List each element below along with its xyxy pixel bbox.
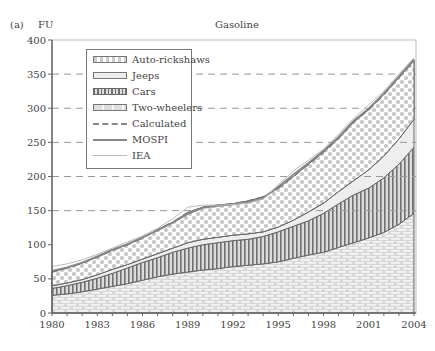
dashed-line-swatch-icon [93,123,127,125]
x-tick-label: 1998 [311,319,336,330]
solid-line-swatch-icon [93,139,127,141]
legend: Auto-rickshaws Jeeps Cars Two-wheelers C… [86,49,192,169]
y-tick-label: 300 [27,103,46,114]
y-tick-label: 150 [27,205,46,216]
x-tick-label: 1986 [130,319,155,330]
light-swatch-icon [93,72,127,79]
x-tick-label: 1992 [220,319,245,330]
x-tick-label: 1989 [175,319,200,330]
stacked-area-chart: 0501001502002503003504001980198319861989… [0,0,435,351]
x-tick-label: 2004 [401,319,426,330]
bricks-swatch-icon [93,104,127,111]
y-tick-label: 50 [33,273,46,284]
y-tick-label: 350 [27,69,46,80]
x-tick-label: 1983 [85,319,110,330]
y-tick-label: 100 [27,239,46,250]
x-tick-label: 2001 [356,319,381,330]
thin-line-swatch-icon [93,155,127,156]
dots-swatch-icon [93,56,127,63]
y-tick-label: 0 [40,308,46,319]
y-tick-label: 250 [27,137,46,148]
y-tick-label: 400 [27,35,46,46]
stripes-swatch-icon [93,88,127,95]
x-tick-label: 1995 [266,319,291,330]
x-tick-label: 1980 [39,319,64,330]
y-tick-label: 200 [27,171,46,182]
